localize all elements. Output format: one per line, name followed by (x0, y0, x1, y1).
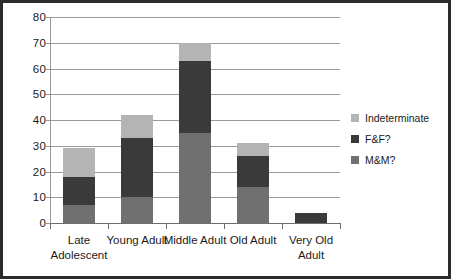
legend-swatch-icon (351, 156, 359, 164)
bar-segment (121, 197, 153, 223)
y-axis-tick-label: 30 (6, 140, 46, 152)
y-axis-tick-label: 20 (6, 166, 46, 178)
legend-label: M&M? (365, 154, 395, 166)
y-axis-tick-label: 40 (6, 114, 46, 126)
bar-column (50, 17, 108, 223)
y-axis-tick-label: 70 (6, 37, 46, 49)
stacked-bar (237, 143, 269, 223)
bar-segment (121, 115, 153, 138)
x-axis-tick-mark (50, 223, 51, 229)
bar-segment (179, 43, 211, 61)
x-axis-tick-mark (108, 223, 109, 229)
stacked-bar (63, 148, 95, 223)
x-axis-tick-label: Very Old Adult (275, 233, 347, 263)
bar-segment (237, 187, 269, 223)
bar-segment (179, 61, 211, 133)
legend-item: F&F? (351, 128, 451, 149)
stacked-bar (295, 213, 327, 223)
x-axis-tick-mark (340, 223, 341, 229)
x-axis-tick-mark (166, 223, 167, 229)
bar-segment (63, 177, 95, 205)
y-axis: 01020304050607080 (3, 17, 46, 223)
y-axis-tick-label: 80 (6, 11, 46, 23)
legend-swatch-icon (351, 114, 359, 122)
y-axis-tick-label: 60 (6, 63, 46, 75)
y-axis-tick-label: 50 (6, 88, 46, 100)
bar-segment (295, 213, 327, 223)
legend-label: F&F? (365, 133, 391, 145)
legend-item: Indeterminate (351, 107, 451, 128)
chart-figure: 01020304050607080 IndeterminateF&F?M&M? … (0, 0, 451, 279)
bar-column (224, 17, 282, 223)
chart-legend: IndeterminateF&F?M&M? (351, 107, 451, 170)
bar-segment (179, 133, 211, 223)
bar-segment (121, 138, 153, 197)
y-axis-tick-label: 0 (6, 217, 46, 229)
x-axis-tick-mark (282, 223, 283, 229)
y-axis-tick-label: 10 (6, 191, 46, 203)
legend-label: Indeterminate (365, 112, 429, 124)
bar-column (282, 17, 340, 223)
bar-column (108, 17, 166, 223)
x-axis-tick-mark (224, 223, 225, 229)
plot-area (50, 17, 340, 223)
legend-item: M&M? (351, 149, 451, 170)
bar-segment (63, 205, 95, 223)
bar-segment (237, 143, 269, 156)
stacked-bar (121, 115, 153, 223)
bar-column (166, 17, 224, 223)
bar-segment (237, 156, 269, 187)
bar-segment (63, 148, 95, 176)
y-axis-line (50, 17, 51, 223)
x-axis-line (50, 223, 340, 224)
legend-swatch-icon (351, 135, 359, 143)
stacked-bar (179, 43, 211, 223)
